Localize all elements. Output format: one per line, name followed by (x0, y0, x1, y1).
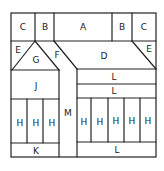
region-c-right: C (141, 22, 147, 32)
region-c-left: C (20, 22, 26, 32)
region-h1: H (17, 118, 24, 128)
region-a: A (80, 22, 87, 32)
region-b-left: B (42, 22, 48, 32)
region-h8: H (145, 116, 152, 126)
region-l-top2: L (111, 86, 116, 96)
region-j: J (34, 81, 38, 91)
region-h4: H (81, 117, 88, 127)
floor-plan-diagram: C B A B C E G F D E J M L L H H H H H H … (0, 0, 164, 171)
region-l-bottom: L (114, 145, 119, 155)
region-h3: H (49, 118, 56, 128)
region-d: D (101, 51, 108, 61)
region-g: G (33, 55, 40, 65)
region-h2: H (33, 118, 40, 128)
region-f: F (54, 50, 59, 60)
region-m: M (64, 108, 72, 118)
region-e-left: E (15, 45, 21, 55)
region-h5: H (97, 117, 104, 127)
region-k: K (33, 146, 40, 156)
region-e-right: E (146, 44, 152, 54)
outline-lines (11, 13, 156, 157)
region-h6: H (113, 116, 120, 126)
region-b-right: B (119, 22, 125, 32)
region-h7: H (129, 116, 136, 126)
region-l-top1: L (111, 72, 116, 82)
